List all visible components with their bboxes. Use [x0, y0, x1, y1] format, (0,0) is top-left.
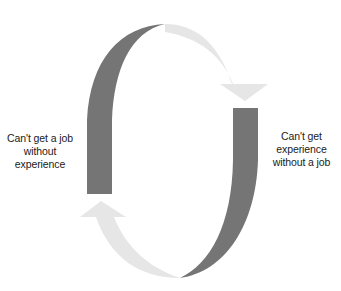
left-band-dark: [87, 24, 165, 194]
right-band-dark: [180, 108, 258, 278]
bottom-arrow-light: [80, 201, 180, 278]
label-no-experience-without-job: Can't get experience without a job: [262, 130, 341, 169]
label-no-job-without-experience: Can't get a job without experience: [0, 132, 80, 171]
top-arrow-light: [165, 24, 268, 101]
